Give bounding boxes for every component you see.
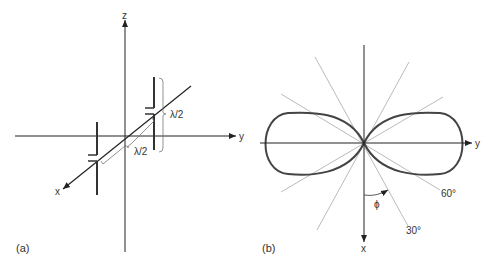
dipole-right <box>145 77 154 150</box>
panel-b: ϕ 60° 30° y x (b) <box>260 45 480 254</box>
panel-a: λ/2 λ/2 z y x (a) <box>15 10 244 254</box>
label-x-b: x <box>361 243 366 254</box>
diagram-canvas: λ/2 λ/2 z y x (a) ϕ 60° 30° y x (b) <box>0 0 492 267</box>
label-phi: ϕ <box>374 199 380 210</box>
bracket-vertical <box>159 78 166 152</box>
panel-label-b: (b) <box>262 242 275 254</box>
label-y-a: y <box>239 131 244 142</box>
label-x-a: x <box>55 186 60 197</box>
x-axis <box>63 86 191 189</box>
label-lambda-half-vertical: λ/2 <box>170 109 184 120</box>
bracket-diagonal <box>101 118 154 164</box>
label-60-deg: 60° <box>441 188 456 199</box>
phi-arc <box>364 190 388 195</box>
label-lambda-half-diagonal: λ/2 <box>134 146 148 157</box>
label-y-b: y <box>475 138 480 149</box>
label-30-deg: 30° <box>406 225 421 236</box>
label-z: z <box>122 10 127 21</box>
dipole-left <box>88 122 97 195</box>
panel-label-a: (a) <box>16 242 29 254</box>
